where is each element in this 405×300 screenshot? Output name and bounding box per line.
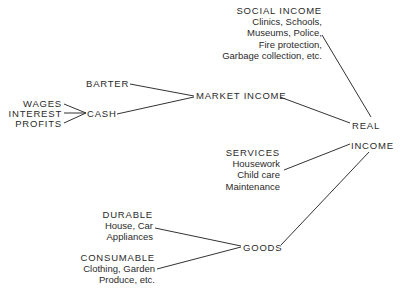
consumable-item: Clothing, Garden [80,263,155,274]
edge-wages-to-cash [64,104,86,113]
real-label: REAL [352,120,380,131]
social-income-title: SOCIAL INCOME [222,5,322,16]
social-income-item: Clinics, Schools, [222,16,322,27]
services-title: SERVICES [226,147,280,158]
services-item: Child care [226,169,280,180]
goods-label: GOODS [243,242,282,253]
edge-cash-to-market [117,97,194,114]
edge-profits-to-cash [64,113,86,123]
durable-block: DURABLE House, Car Appliances [103,209,153,243]
consumable-block: CONSUMABLE Clothing, Garden Produce, etc… [80,252,155,286]
durable-title: DURABLE [103,209,153,220]
social-income-item: Museums, Police, [222,27,322,38]
social-income-item: Fire protection, [222,39,322,50]
edge-social-to-real [322,35,371,117]
edge-services-to-income [284,144,350,170]
edge-durable-to-goods [155,228,241,246]
edge-barter-to-market [130,84,194,96]
market-income-label: MARKET INCOME [196,90,286,101]
services-item: Housework [226,158,280,169]
consumable-item: Produce, etc. [80,274,155,285]
durable-item: Appliances [103,231,153,242]
edge-market-to-real [280,97,350,123]
profits-label: PROFITS [15,118,62,129]
durable-item: House, Car [103,220,153,231]
cash-label: CASH [87,108,117,119]
social-income-item: Garbage collection, etc. [222,50,322,61]
services-block: SERVICES Housework Child care Maintenanc… [226,147,280,192]
barter-label: BARTER [86,78,129,89]
services-item: Maintenance [226,181,280,192]
income-label: INCOME [351,140,394,151]
social-income-block: SOCIAL INCOME Clinics, Schools, Museums,… [222,5,322,61]
connector-lines [0,0,405,300]
real-income-diagram: SOCIAL INCOME Clinics, Schools, Museums,… [0,0,405,300]
consumable-title: CONSUMABLE [80,252,155,263]
edge-consumable-to-goods [157,247,241,269]
